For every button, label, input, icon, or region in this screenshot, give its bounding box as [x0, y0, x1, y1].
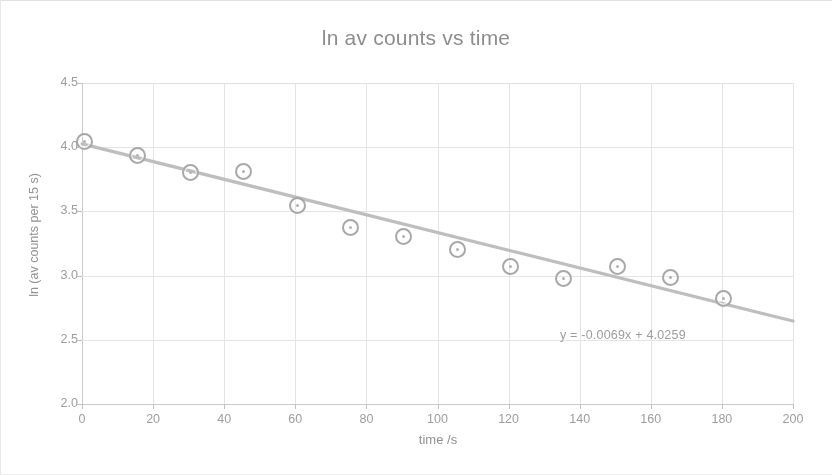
- data-point: [235, 163, 252, 180]
- data-point: [449, 241, 466, 258]
- x-tick-label: 80: [344, 412, 388, 426]
- x-tick-label: 140: [558, 412, 602, 426]
- y-tick-mark: [77, 83, 82, 84]
- y-tick-label: 4.5: [34, 75, 78, 89]
- x-tick-mark: [82, 404, 83, 409]
- data-point: [609, 258, 626, 275]
- x-tick-label: 180: [700, 412, 744, 426]
- data-point: [129, 147, 146, 164]
- trendline: [82, 83, 793, 404]
- plot-area: [82, 83, 793, 404]
- x-tick-mark: [651, 404, 652, 409]
- x-tick-mark: [295, 404, 296, 409]
- x-tick-mark: [793, 404, 794, 409]
- data-point: [182, 164, 199, 181]
- y-tick-mark: [77, 211, 82, 212]
- chart-title: ln av counts vs time: [0, 26, 832, 50]
- x-tick-mark: [224, 404, 225, 409]
- x-tick-label: 0: [60, 412, 104, 426]
- x-tick-mark: [153, 404, 154, 409]
- y-axis-title: ln (av counts per 15 s): [27, 135, 41, 335]
- x-tick-mark: [366, 404, 367, 409]
- x-tick-label: 100: [416, 412, 460, 426]
- y-tick-mark: [77, 340, 82, 341]
- y-tick-label: 2.0: [34, 396, 78, 410]
- data-point: [715, 290, 732, 307]
- x-tick-mark: [509, 404, 510, 409]
- x-tick-mark: [722, 404, 723, 409]
- data-point: [502, 258, 519, 275]
- gridline-vertical: [793, 83, 794, 404]
- x-tick-label: 200: [771, 412, 815, 426]
- y-tick-mark: [77, 276, 82, 277]
- x-tick-mark: [580, 404, 581, 409]
- trendline-equation-label: y = -0.0069x + 4.0259: [560, 328, 686, 342]
- x-axis-title: time /s: [82, 432, 794, 447]
- x-tick-mark: [438, 404, 439, 409]
- x-tick-label: 40: [202, 412, 246, 426]
- x-tick-label: 20: [131, 412, 175, 426]
- data-point: [342, 219, 359, 236]
- data-point: [289, 197, 306, 214]
- y-tick-mark: [77, 147, 82, 148]
- x-tick-label: 160: [629, 412, 673, 426]
- chart-container: ln av counts vs time 2.02.53.03.54.04.5 …: [0, 0, 832, 475]
- x-axis-tick-labels: 020406080100120140160180200: [82, 404, 794, 434]
- x-tick-label: 60: [273, 412, 317, 426]
- x-tick-label: 120: [487, 412, 531, 426]
